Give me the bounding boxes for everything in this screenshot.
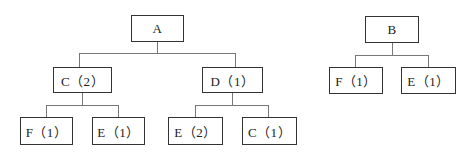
node-e1: E（1） [92, 117, 145, 145]
connector [46, 105, 119, 106]
connector [118, 105, 119, 117]
connector [82, 93, 83, 105]
node-e2: E（2） [168, 117, 223, 145]
connector [355, 55, 429, 56]
connector [195, 105, 196, 117]
connector [428, 55, 429, 67]
connector [392, 43, 393, 55]
node-a: A [131, 15, 184, 42]
connector [79, 53, 236, 54]
node-c2: C（2） [53, 67, 112, 93]
connector [195, 105, 269, 106]
node-b: B [365, 16, 419, 43]
node-b-e1: E（1） [401, 67, 456, 94]
node-b-f1: F（1） [329, 67, 383, 94]
connector [46, 105, 47, 117]
connector [235, 53, 236, 67]
connector [79, 53, 80, 67]
node-d1: D（1） [202, 67, 263, 93]
connector [355, 55, 356, 67]
connector [268, 105, 269, 117]
node-c1: C（1） [242, 117, 297, 145]
connector [232, 93, 233, 105]
node-f1: F（1） [20, 117, 73, 145]
